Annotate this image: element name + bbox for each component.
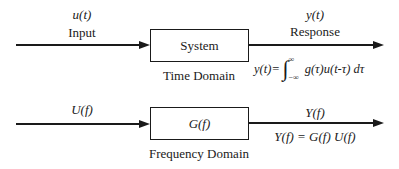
- time-domain-label: Time Domain: [163, 69, 235, 83]
- freq-input-signal-label: U(f): [71, 103, 93, 117]
- equation-lhs: y(t): [254, 62, 271, 77]
- transfer-function-label: G(f): [189, 116, 211, 132]
- convolution-equation: y(t) = ∫ ∞ −∞ g(τ)u(t-τ) dτ: [254, 56, 364, 82]
- input-arrow-line: [16, 44, 140, 46]
- transfer-function-block: G(f): [150, 107, 249, 140]
- input-signal-label: u(t): [73, 8, 92, 22]
- equation-equals: =: [272, 62, 279, 77]
- output-arrow-line: [248, 44, 374, 46]
- frequency-equation: Y(f) = G(f) U(f): [274, 130, 355, 144]
- freq-output-arrow-line: [248, 122, 374, 124]
- output-arrowhead-icon: [373, 41, 384, 49]
- freq-input-arrow-line: [16, 123, 140, 125]
- equation-differential: dτ: [353, 62, 364, 77]
- input-label: Input: [68, 26, 95, 40]
- equation-integrand: g(τ)u(t-τ): [305, 62, 351, 77]
- input-arrowhead-icon: [139, 41, 150, 49]
- freq-output-arrowhead-icon: [373, 119, 384, 127]
- system-label: System: [180, 38, 218, 54]
- output-signal-label: y(t): [306, 8, 324, 22]
- integral-upper-limit: ∞: [288, 56, 298, 64]
- frequency-domain-label: Frequency Domain: [149, 147, 249, 161]
- integral-sign: ∫ ∞ −∞: [282, 56, 298, 82]
- response-label: Response: [290, 25, 340, 39]
- system-block: System: [150, 29, 249, 62]
- freq-input-arrowhead-icon: [139, 120, 150, 128]
- integral-lower-limit: −∞: [288, 74, 298, 82]
- freq-output-signal-label: Y(f): [305, 106, 325, 120]
